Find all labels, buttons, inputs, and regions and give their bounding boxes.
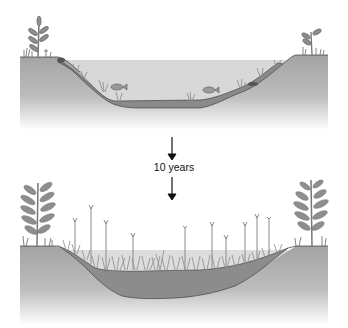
shore-plant-left — [24, 16, 51, 57]
time-arrow-top — [168, 137, 176, 160]
panel-before — [20, 16, 328, 130]
turtle — [57, 58, 65, 63]
shrub-right — [292, 179, 329, 246]
time-arrow-bottom — [168, 177, 176, 200]
shore-plant-right — [301, 28, 324, 55]
rock — [248, 82, 258, 86]
panel-after — [19, 179, 329, 325]
time-label: 10 years — [0, 161, 348, 173]
shrub-left — [19, 181, 56, 246]
pond-succession-diagram: 10 years — [0, 0, 348, 328]
